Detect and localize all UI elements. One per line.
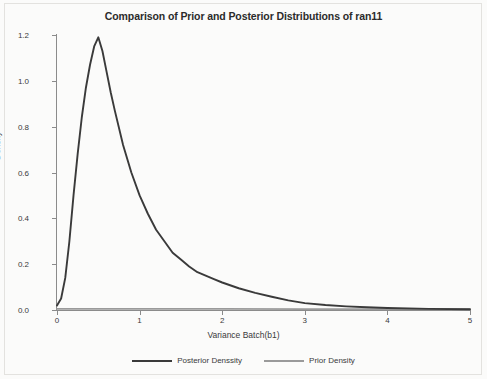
legend-swatch-posterior-icon [132,360,172,362]
chart-figure: Comparison of Prior and Posterior Distri… [0,0,487,379]
legend-swatch-prior-icon [264,360,304,362]
legend-item-prior: Prior Density [264,356,355,365]
legend-label-posterior: Posterior Denssity [177,356,242,365]
legend-label-prior: Prior Density [309,356,355,365]
posterior-density-line [57,37,470,309]
legend-item-posterior: Posterior Denssity [132,356,242,365]
chart-legend: Posterior Denssity Prior Density [0,356,487,365]
chart-plot-lines [0,0,487,379]
